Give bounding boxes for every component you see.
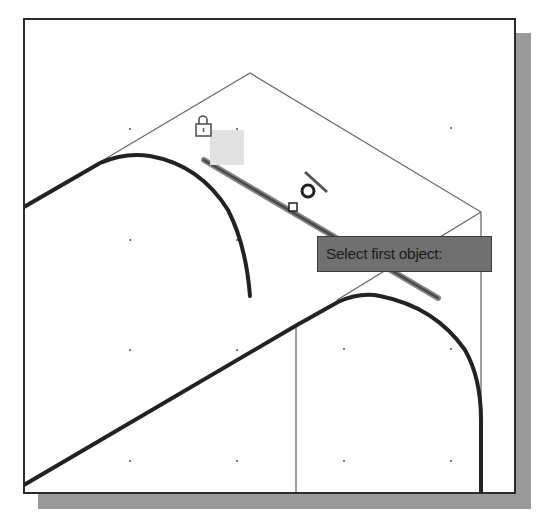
lower-arc[interactable]: [24, 295, 481, 492]
lock-icon: [185, 110, 219, 145]
command-prompt-tooltip: Select first object:: [317, 236, 492, 272]
pickbox-square-icon: [289, 203, 297, 211]
grid-dots: [129, 127, 452, 462]
drawing-viewport[interactable]: Select first object:: [23, 18, 516, 494]
lock-badge: [210, 130, 244, 165]
thick-objects: [24, 155, 481, 492]
highlighted-line-core: [204, 160, 438, 298]
upper-arc[interactable]: [24, 155, 250, 296]
tangent-snap-icon: [302, 172, 327, 197]
construction-lines: [100, 73, 481, 492]
